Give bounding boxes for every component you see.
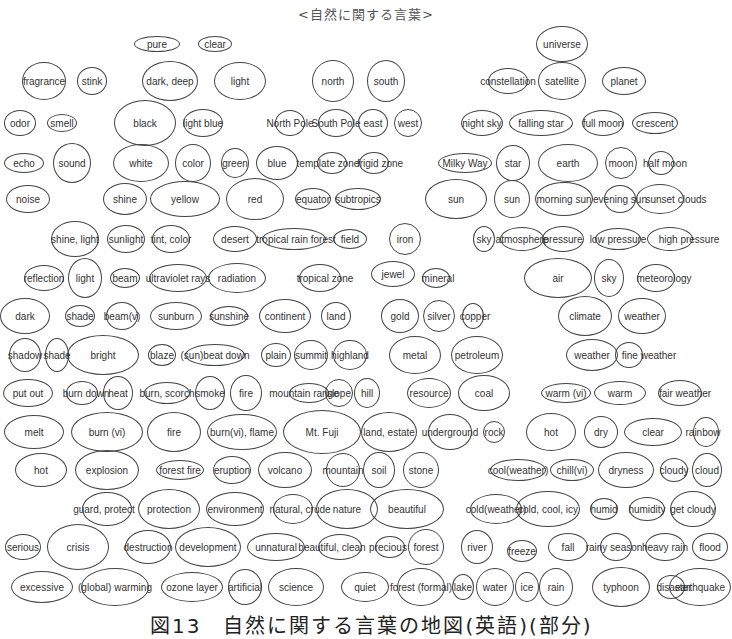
word-label: tint, color [151,234,192,245]
word-label: stink [82,76,103,87]
word-label: bright [90,350,115,361]
figure-caption: 図13 自然に関する言葉の地図(英語)(部分) [150,610,593,639]
word-label: melt [25,427,44,438]
word-label: subtropics [335,194,381,205]
word-label: desert [221,234,249,245]
word-label: slope [327,388,351,399]
word-label: earthquake [675,582,725,593]
word-label: night sky [462,118,501,129]
word-label: shadow [8,350,42,361]
word-label: morning sun [536,194,591,205]
word-label: beam [112,273,137,284]
word-label: soil [371,465,386,476]
word-label: west [398,118,419,129]
word-label: continent [265,311,306,322]
word-label: red [248,194,262,205]
word-label: echo [13,158,35,169]
word-label: sky [477,234,492,245]
word-label: smell [50,118,73,129]
word-label: blaze [150,350,174,361]
word-label: beam(v) [104,311,141,322]
word-label: meteorology [636,273,691,284]
word-label: dark, deep [146,76,193,87]
word-label: clear [204,39,226,50]
word-label: guard, protect [73,504,135,515]
word-label: humidity [628,504,665,515]
word-label: ultraviolet rays [146,273,210,284]
word-label: explosion [86,465,128,476]
word-label: cold, cool, icy [518,504,578,515]
word-label: yellow [171,194,199,205]
word-label: copper [460,311,491,322]
word-label: fire [167,427,181,438]
word-label: coal [475,388,493,399]
word-label: dry [594,427,608,438]
word-label: forest (formal) [390,582,452,593]
word-label: hot [34,465,48,476]
word-label: water [483,582,507,593]
word-label: sunlight [109,234,143,245]
word-label: crisis [67,542,90,553]
word-label: star [505,158,522,169]
word-label: white [129,158,152,169]
word-label: highland [331,350,369,361]
word-label: excessive [20,582,64,593]
word-label: half moon [643,158,687,169]
word-label: north [322,76,345,87]
word-label: shine [113,194,137,205]
word-label: eruption [214,465,250,476]
word-label: sunshine [209,311,249,322]
word-label: mineral [422,273,455,284]
word-label: tropical zone [297,273,354,284]
word-label: clear [642,427,664,438]
word-label: stone [409,465,433,476]
word-label: weather [574,350,610,361]
word-label: beautiful, clean [298,542,365,553]
word-label: shade [66,311,93,322]
word-label: noise [16,194,40,205]
word-label: radiation [218,273,256,284]
word-label: field [341,234,359,245]
word-label: Mt. Fuji [306,427,339,438]
word-label: light [76,273,94,284]
word-label: atmosphere [496,234,549,245]
word-label: climate [569,311,601,322]
word-label: plain [265,350,286,361]
word-label: reflection [24,273,65,284]
word-label: rain [548,582,565,593]
word-label: moon [608,158,633,169]
word-label: summit [295,350,327,361]
word-label: fire [239,388,253,399]
word-label: North Pole [266,118,313,129]
word-label: petroleum [455,350,499,361]
word-label: burn, scorch [139,388,194,399]
word-label: humid [590,504,617,515]
word-label: beautiful [388,504,426,515]
word-label: sound [58,158,85,169]
word-label: east [364,118,383,129]
word-label: gold [391,311,410,322]
word-label: fall [562,542,575,553]
word-label: chill(vi) [556,465,587,476]
word-label: black [133,118,156,129]
word-label: frigid zone [357,158,403,169]
word-label: heat [108,388,127,399]
word-label: smoke [195,388,224,399]
word-label: fragrance [23,76,65,87]
word-label: warm (vi) [545,388,586,399]
word-label: fair weather [659,388,711,399]
word-label: fine weather [622,350,676,361]
word-label: crescent [636,118,674,129]
word-label: hill [361,388,373,399]
word-label: pressure [544,234,583,245]
word-label: precious [369,542,407,553]
word-label: sunburn [158,311,194,322]
word-label: satellite [545,76,579,87]
word-label: air [552,273,563,284]
word-label: blue [268,158,287,169]
word-label: pure [147,39,167,50]
word-label: planet [610,76,637,87]
word-label: river [467,542,486,553]
word-label: sun [448,194,464,205]
word-label: quiet [354,582,376,593]
